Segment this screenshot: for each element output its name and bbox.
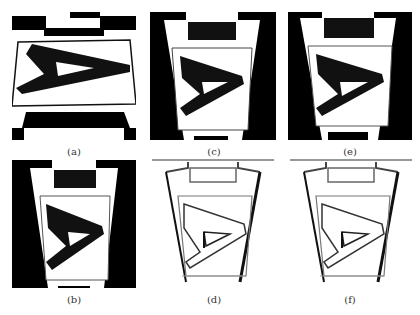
panel-e-image: [288, 12, 412, 140]
caption-e: (e): [330, 146, 370, 157]
caption-b: (b): [54, 294, 94, 305]
panel-b-image: [12, 160, 136, 288]
panel-e: [288, 12, 412, 140]
panel-d-image: [148, 158, 278, 286]
panel-f: [286, 158, 416, 286]
panel-d: [148, 158, 278, 286]
panel-c-image: [150, 12, 276, 140]
panel-a-image: [12, 10, 136, 140]
caption-c: (c): [194, 146, 234, 157]
panel-a: [12, 10, 136, 140]
panel-b: [12, 160, 136, 288]
panel-c: [150, 12, 276, 140]
caption-a: (a): [54, 146, 94, 157]
panel-f-image: [286, 158, 416, 286]
caption-d: (d): [194, 294, 234, 305]
caption-f: (f): [330, 294, 370, 305]
